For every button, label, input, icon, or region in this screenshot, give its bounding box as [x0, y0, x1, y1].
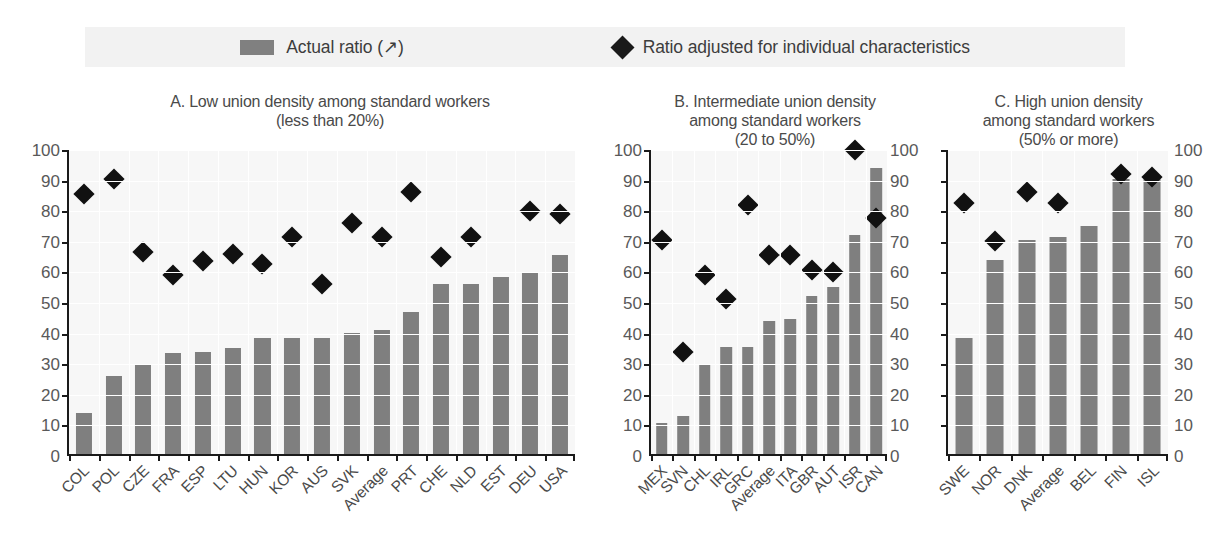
bar[interactable]: [806, 296, 818, 454]
y-tick-mark: [62, 272, 69, 274]
bar[interactable]: [195, 352, 211, 455]
chart-category-slot[interactable]: [737, 150, 758, 454]
chart-category-slot[interactable]: [1074, 150, 1105, 454]
bar[interactable]: [828, 287, 840, 454]
chart-category-slot[interactable]: [1137, 150, 1168, 454]
chart-category-slot[interactable]: [486, 150, 516, 454]
bar[interactable]: [1144, 177, 1161, 454]
bar[interactable]: [656, 423, 668, 454]
chart-category-slot[interactable]: [1011, 150, 1042, 454]
diamond-marker[interactable]: [222, 243, 243, 264]
chart-category-slot[interactable]: [69, 150, 99, 454]
bar[interactable]: [463, 284, 479, 454]
diamond-marker[interactable]: [133, 241, 154, 262]
diamond-marker[interactable]: [801, 260, 822, 281]
chart-category-slot[interactable]: [337, 150, 367, 454]
bar[interactable]: [955, 338, 972, 454]
diamond-marker[interactable]: [341, 212, 362, 233]
chart-category-slot[interactable]: [823, 150, 844, 454]
diamond-marker[interactable]: [430, 246, 451, 267]
bar[interactable]: [284, 338, 300, 454]
chart-category-slot[interactable]: [307, 150, 337, 454]
gridline-vertical: [758, 150, 759, 454]
gridline: [651, 272, 887, 273]
chart-category-slot[interactable]: [948, 150, 979, 454]
chart-category-slot[interactable]: [651, 150, 672, 454]
y-tick-label: 50: [890, 295, 920, 312]
diamond-marker[interactable]: [192, 251, 213, 272]
panel-c-plot: [946, 150, 1168, 456]
chart-category-slot[interactable]: [979, 150, 1010, 454]
bar[interactable]: [433, 284, 449, 454]
bar[interactable]: [699, 365, 711, 454]
bar[interactable]: [1049, 237, 1066, 454]
bar[interactable]: [314, 338, 330, 454]
chart-category-slot[interactable]: [515, 150, 545, 454]
bar[interactable]: [742, 347, 754, 454]
chart-category-slot[interactable]: [456, 150, 486, 454]
bar[interactable]: [76, 413, 92, 454]
diamond-marker[interactable]: [673, 341, 694, 362]
y-tick-mark: [941, 395, 948, 397]
chart-category-slot[interactable]: [545, 150, 575, 454]
bar[interactable]: [785, 319, 797, 454]
chart-category-slot[interactable]: [758, 150, 779, 454]
bar[interactable]: [552, 255, 568, 454]
chart-category-slot[interactable]: [844, 150, 865, 454]
diamond-marker[interactable]: [460, 226, 481, 247]
diamond-marker[interactable]: [401, 182, 422, 203]
chart-category-slot[interactable]: [1042, 150, 1073, 454]
chart-category-slot[interactable]: [672, 150, 693, 454]
x-label-slot: FIN: [1105, 458, 1137, 555]
chart-category-slot[interactable]: [694, 150, 715, 454]
bar[interactable]: [106, 376, 122, 454]
bar[interactable]: [374, 330, 390, 454]
bar[interactable]: [254, 338, 270, 454]
bar[interactable]: [135, 364, 151, 454]
bar[interactable]: [344, 333, 360, 454]
diamond-marker[interactable]: [163, 264, 184, 285]
bar[interactable]: [849, 235, 861, 454]
diamond-marker[interactable]: [1016, 182, 1037, 203]
chart-category-slot[interactable]: [780, 150, 801, 454]
gridline-vertical: [715, 150, 716, 454]
bar[interactable]: [720, 347, 732, 454]
chart-category-slot[interactable]: [715, 150, 736, 454]
chart-category-slot[interactable]: [218, 150, 248, 454]
chart-category-slot[interactable]: [426, 150, 456, 454]
diamond-marker[interactable]: [758, 245, 779, 266]
bar[interactable]: [165, 353, 181, 454]
chart-category-slot[interactable]: [367, 150, 397, 454]
diamond-marker[interactable]: [282, 226, 303, 247]
gridline-vertical: [1011, 150, 1012, 454]
bar[interactable]: [1081, 226, 1098, 454]
bar[interactable]: [677, 416, 689, 454]
chart-category-slot[interactable]: [801, 150, 822, 454]
chart-category-slot[interactable]: [188, 150, 218, 454]
chart-category-slot[interactable]: [277, 150, 307, 454]
diamond-marker[interactable]: [715, 289, 736, 310]
diamond-marker[interactable]: [103, 168, 124, 189]
chart-category-slot[interactable]: [1105, 150, 1136, 454]
bar[interactable]: [1112, 179, 1129, 454]
y-tick-label: 40: [890, 325, 920, 342]
diamond-marker[interactable]: [73, 183, 94, 204]
gridline: [69, 364, 575, 365]
diamond-marker[interactable]: [371, 226, 392, 247]
panel-c-title-line1: C. High union density: [930, 92, 1207, 111]
chart-category-slot[interactable]: [866, 150, 887, 454]
bar[interactable]: [522, 272, 538, 454]
diamond-marker[interactable]: [651, 229, 672, 250]
diamond-marker[interactable]: [311, 274, 332, 295]
chart-category-slot[interactable]: [396, 150, 426, 454]
bar[interactable]: [763, 321, 775, 454]
chart-category-slot[interactable]: [99, 150, 129, 454]
diamond-marker[interactable]: [550, 203, 571, 224]
y-tick-label: 70: [890, 233, 920, 250]
chart-category-slot[interactable]: [158, 150, 188, 454]
chart-category-slot[interactable]: [129, 150, 159, 454]
chart-category-slot[interactable]: [248, 150, 278, 454]
diamond-marker[interactable]: [694, 264, 715, 285]
gridline-vertical: [672, 150, 673, 454]
diamond-marker[interactable]: [780, 245, 801, 266]
